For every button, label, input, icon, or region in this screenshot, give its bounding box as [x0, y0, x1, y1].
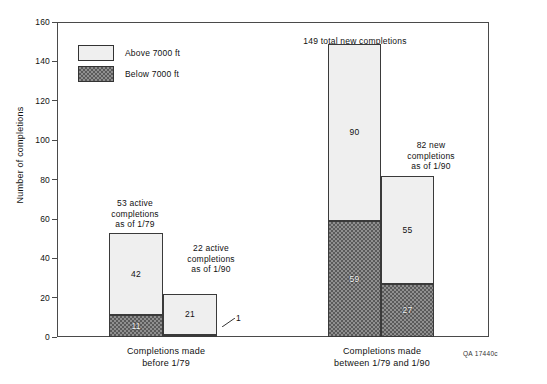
- bar-annotation-2-line2: completions: [168, 254, 254, 265]
- y-tick-80: 80: [0, 175, 57, 185]
- bar-3-segment-above[interactable]: 90: [328, 44, 381, 221]
- bar-4-below-value: 27: [403, 305, 413, 315]
- bar-annotation-2-line1: 22 active: [168, 243, 254, 254]
- chart-canvas: Number of completions 160 140 120 100 80…: [0, 0, 547, 384]
- x-group-label-2-line1: Completions made: [299, 345, 465, 357]
- x-group-label-2-line2: between 1/79 and 1/90: [299, 357, 465, 369]
- bar-3-segment-below[interactable]: 59: [328, 221, 381, 337]
- bar-1[interactable]: 42 11: [109, 233, 163, 337]
- y-tick-160: 160: [0, 17, 57, 27]
- bar-annotation-4-line2: completions: [387, 151, 475, 162]
- bar-2-segment-below[interactable]: [163, 335, 217, 337]
- bar-annotation-1: 53 active completions as of 1/79: [88, 198, 182, 230]
- legend-swatch-below-icon: [78, 66, 114, 82]
- bar-2-segment-above[interactable]: 21: [163, 294, 217, 335]
- y-tick-120: 120: [0, 96, 57, 106]
- bar-1-above-value: 42: [131, 269, 141, 279]
- x-group-label-1: Completions made before 1/79: [103, 345, 229, 369]
- figure-code: QA 17440c: [463, 350, 498, 357]
- bar-annotation-1-line1: 53 active: [88, 198, 182, 209]
- bar-3[interactable]: 90 59: [328, 44, 381, 338]
- legend-item-above: Above 7000 ft: [78, 45, 180, 61]
- bar-1-segment-above[interactable]: 42: [109, 233, 163, 316]
- x-group-label-2: Completions made between 1/79 and 1/90: [299, 345, 465, 369]
- bar-4-segment-above[interactable]: 55: [381, 176, 434, 284]
- bar-4-segment-below[interactable]: 27: [381, 284, 434, 337]
- legend: Above 7000 ft Below 7000 ft: [78, 45, 180, 87]
- legend-item-below: Below 7000 ft: [78, 66, 180, 82]
- bar-annotation-2: 22 active completions as of 1/90: [168, 243, 254, 275]
- y-tick-140: 140: [0, 56, 57, 66]
- bar-3-below-value: 59: [350, 274, 360, 284]
- x-group-label-1-line2: before 1/79: [103, 357, 229, 369]
- bar-1-segment-below[interactable]: 11: [109, 315, 163, 337]
- x-group-label-1-line1: Completions made: [103, 345, 229, 357]
- y-tick-0: 0: [0, 332, 57, 342]
- bar-2-above-value: 21: [185, 309, 195, 319]
- y-axis-title: Number of completions: [15, 55, 25, 255]
- bar-annotation-1-line3: as of 1/79: [88, 219, 182, 230]
- y-tick-40: 40: [0, 253, 57, 263]
- bar-annotation-4: 82 new completions as of 1/90: [387, 140, 475, 172]
- legend-label-above: Above 7000 ft: [125, 48, 180, 59]
- callout-leader-line-icon: [222, 318, 235, 327]
- bar-annotation-1-line2: completions: [88, 209, 182, 220]
- y-tick-20: 20: [0, 293, 57, 303]
- legend-label-below: Below 7000 ft: [125, 69, 179, 80]
- legend-swatch-above-icon: [78, 45, 114, 61]
- bar-annotation-4-line1: 82 new: [387, 140, 475, 151]
- y-tick-60: 60: [0, 214, 57, 224]
- bar-4-above-value: 55: [403, 225, 413, 235]
- bar-annotation-4-line3: as of 1/90: [387, 161, 475, 172]
- bar-2[interactable]: 21: [163, 294, 217, 337]
- y-tick-100: 100: [0, 135, 57, 145]
- bar-annotation-2-line3: as of 1/90: [168, 264, 254, 275]
- bar-3-above-value: 90: [350, 127, 360, 137]
- bar-2-below-value: 1: [236, 313, 241, 323]
- bar-4[interactable]: 55 27: [381, 176, 434, 338]
- bar-1-below-value: 11: [131, 321, 140, 331]
